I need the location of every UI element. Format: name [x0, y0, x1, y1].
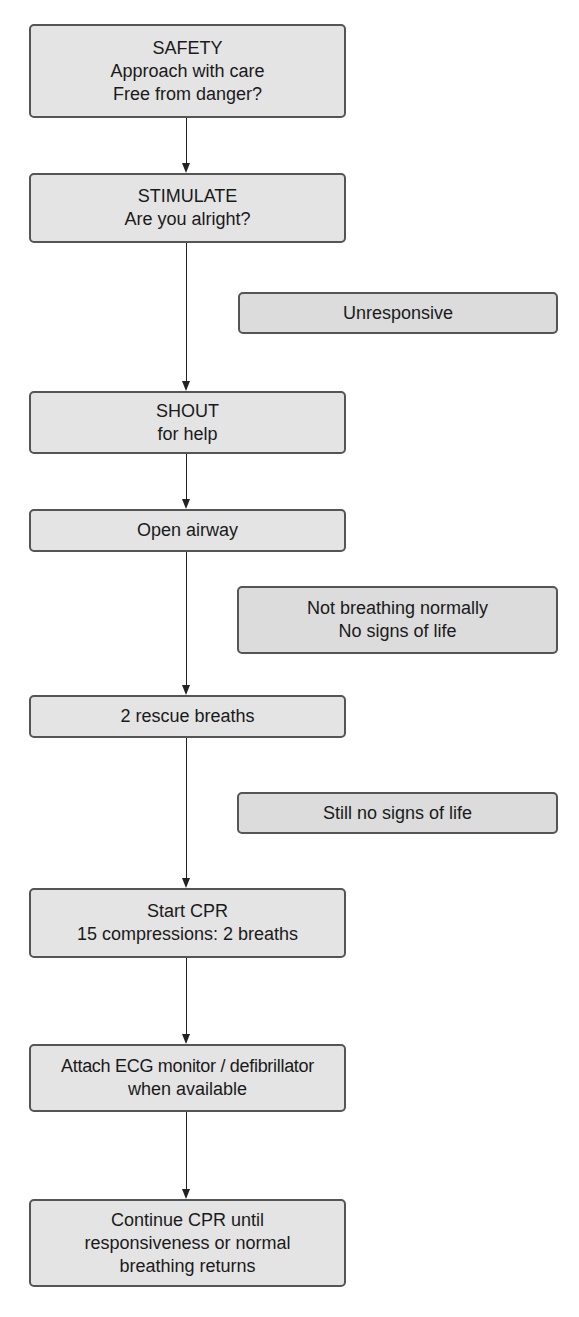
step-shout-title: SHOUT — [156, 400, 219, 423]
step-shout-line-2: for help — [157, 423, 217, 446]
arrow-line — [186, 958, 188, 1035]
step-stimulate-title: STIMULATE — [138, 185, 238, 208]
step-continue-cpr: Continue CPR until responsiveness or nor… — [29, 1199, 346, 1287]
condition-not-breathing-line-1: Not breathing normally — [307, 597, 488, 620]
step-continue-cpr-line-2: responsiveness or normal — [84, 1232, 290, 1255]
step-continue-cpr-line-1: Continue CPR until — [111, 1209, 264, 1232]
condition-still-no-signs-label: Still no signs of life — [323, 802, 472, 825]
step-start-cpr-line-2: 15 compressions: 2 breaths — [77, 923, 298, 946]
step-start-cpr: Start CPR 15 compressions: 2 breaths — [29, 888, 346, 958]
step-attach-ecg: Attach ECG monitor / defibrillator when … — [29, 1044, 346, 1112]
condition-not-breathing-line-2: No signs of life — [338, 620, 456, 643]
arrow-down-icon — [182, 1034, 190, 1044]
step-continue-cpr-line-3: breathing returns — [119, 1255, 255, 1278]
arrow-down-icon — [182, 381, 190, 391]
arrow-line — [186, 738, 188, 879]
arrow-line — [186, 1112, 188, 1190]
condition-unresponsive-label: Unresponsive — [343, 302, 453, 325]
step-safety: SAFETY Approach with care Free from dang… — [29, 24, 346, 118]
step-open-airway: Open airway — [29, 509, 346, 552]
condition-not-breathing: Not breathing normally No signs of life — [237, 586, 558, 654]
step-start-cpr-title: Start CPR — [147, 900, 228, 923]
arrow-line — [186, 454, 188, 500]
arrow-line — [186, 552, 188, 686]
arrow-down-icon — [182, 163, 190, 173]
condition-still-no-signs: Still no signs of life — [237, 792, 558, 834]
step-safety-line-2: Approach with care — [110, 60, 264, 83]
arrow-down-icon — [182, 878, 190, 888]
arrow-down-icon — [182, 685, 190, 695]
arrow-line — [186, 118, 188, 164]
arrow-down-icon — [182, 1189, 190, 1199]
step-rescue-breaths: 2 rescue breaths — [29, 695, 346, 738]
step-safety-title: SAFETY — [152, 37, 222, 60]
step-open-airway-label: Open airway — [137, 519, 238, 542]
step-stimulate-line-2: Are you alright? — [124, 208, 250, 231]
arrow-down-icon — [182, 499, 190, 509]
step-shout: SHOUT for help — [29, 391, 346, 454]
step-safety-line-3: Free from danger? — [113, 83, 262, 106]
step-stimulate: STIMULATE Are you alright? — [29, 173, 346, 243]
step-attach-ecg-line-1: Attach ECG monitor / defibrillator — [61, 1055, 314, 1078]
condition-unresponsive: Unresponsive — [238, 292, 558, 334]
arrow-line — [186, 243, 188, 382]
step-rescue-breaths-label: 2 rescue breaths — [120, 705, 254, 728]
step-attach-ecg-line-2: when available — [128, 1078, 247, 1101]
